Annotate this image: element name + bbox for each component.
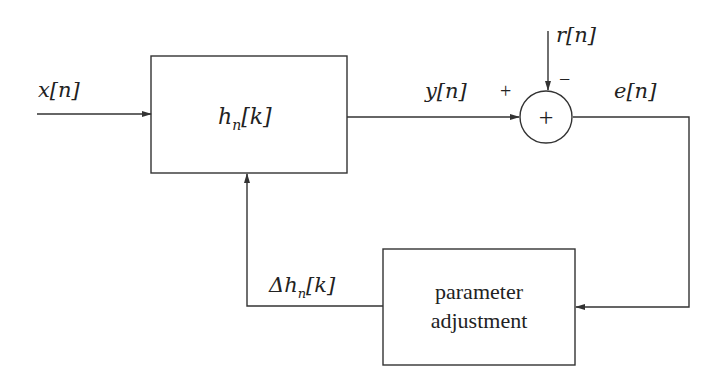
- plus-sign: +: [500, 80, 511, 102]
- input-label: x[n]: [38, 78, 81, 102]
- error-label: e[n]: [614, 79, 657, 103]
- reference-label: r[n]: [556, 23, 597, 47]
- parameter-adjustment-block: [383, 249, 575, 365]
- update-label: Δhn[k]: [268, 273, 336, 301]
- adjust-label-line1: parameter: [435, 279, 524, 304]
- block-diagram: x[n] hn[k] y[n] + + r[n] − e[n] paramete…: [0, 0, 723, 385]
- output-label: y[n]: [424, 79, 468, 103]
- adjust-label-line2: adjustment: [431, 308, 528, 333]
- error-path: [573, 117, 689, 307]
- summer-symbol: +: [539, 103, 554, 132]
- minus-sign: −: [559, 68, 570, 90]
- filter-label: hn[k]: [218, 104, 272, 133]
